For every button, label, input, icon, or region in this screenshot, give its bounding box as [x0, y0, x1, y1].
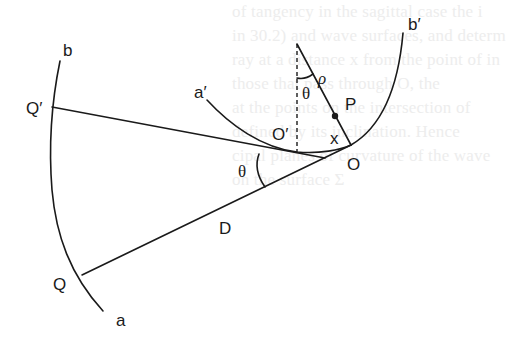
label-a-prime: a′: [194, 83, 207, 102]
label-b: b: [63, 41, 72, 60]
wavefront-curve-ab: [51, 61, 103, 311]
label-q: Q: [53, 275, 66, 294]
label-o-prime: O′: [272, 125, 288, 144]
point-p-dot: [332, 113, 338, 119]
label-x: x: [330, 129, 339, 148]
angle-arc-theta-bottom: [257, 154, 265, 187]
label-o: O: [347, 155, 360, 174]
ray-q-to-o: [82, 145, 351, 275]
label-q-prime: Q′: [26, 99, 42, 118]
angle-arc-theta-top: [297, 74, 313, 79]
label-d: D: [219, 219, 231, 238]
label-b-prime: b′: [408, 15, 421, 34]
label-rho: ρ: [317, 69, 326, 88]
label-a: a: [116, 311, 126, 330]
label-theta-top: θ: [302, 84, 310, 103]
label-p: P: [345, 95, 356, 114]
label-theta-bottom: θ: [238, 162, 246, 181]
